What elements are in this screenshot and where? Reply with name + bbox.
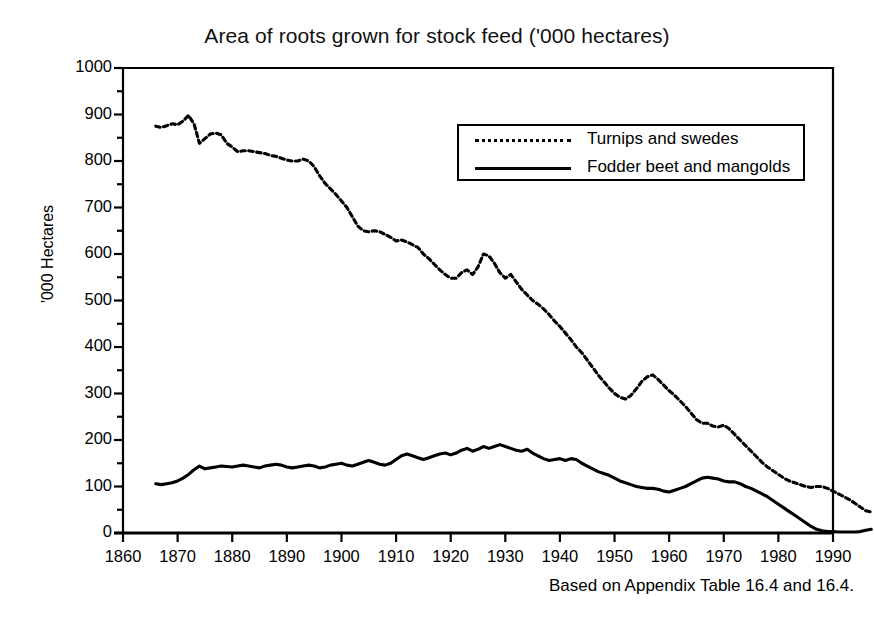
source-caption: Based on Appendix Table 16.4 and 16.4. — [549, 576, 854, 596]
legend-label-fodder-beet: Fodder beet and mangolds — [587, 157, 790, 177]
x-tick-label: 1980 — [750, 547, 806, 566]
solid-line-swatch — [475, 160, 571, 174]
series-line-fodder-beet — [156, 445, 871, 532]
x-tick-label: 1940 — [532, 547, 588, 566]
legend: Turnips and swedes Fodder beet and mango… — [457, 124, 805, 181]
y-tick-label: 0 — [40, 522, 112, 541]
y-tick-label: 800 — [40, 150, 112, 169]
y-tick-label: 1000 — [40, 57, 112, 76]
y-tick-label: 400 — [40, 336, 112, 355]
x-tick-label: 1930 — [477, 547, 533, 566]
y-tick-label: 900 — [40, 104, 112, 123]
y-tick-label: 500 — [40, 290, 112, 309]
x-tick-label: 1970 — [696, 547, 752, 566]
y-tick-label: 100 — [40, 476, 112, 495]
x-tick-label: 1920 — [423, 547, 479, 566]
x-tick-label: 1910 — [368, 547, 424, 566]
y-tick-label: 700 — [40, 197, 112, 216]
x-tick-label: 1880 — [204, 547, 260, 566]
legend-item-turnips: Turnips and swedes — [459, 125, 803, 153]
x-tick-label: 1990 — [805, 547, 861, 566]
chart-page: Area of roots grown for stock feed ('000… — [0, 0, 874, 638]
legend-item-fodder-beet: Fodder beet and mangolds — [459, 153, 803, 181]
dotted-line-swatch — [475, 132, 571, 146]
x-tick-label: 1890 — [259, 547, 315, 566]
x-tick-label: 1900 — [313, 547, 369, 566]
x-tick-label: 1950 — [587, 547, 643, 566]
x-tick-label: 1960 — [641, 547, 697, 566]
x-tick-label: 1870 — [150, 547, 206, 566]
plot-area — [0, 0, 874, 638]
x-tick-label: 1860 — [95, 547, 151, 566]
y-tick-label: 200 — [40, 429, 112, 448]
y-tick-label: 300 — [40, 383, 112, 402]
y-tick-label: 600 — [40, 243, 112, 262]
legend-label-turnips: Turnips and swedes — [587, 129, 739, 149]
